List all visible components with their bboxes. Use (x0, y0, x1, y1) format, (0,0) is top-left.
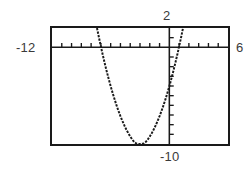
xmin-label: -12 (16, 41, 35, 54)
calculator-screenshot: -12 6 2 -10 (0, 0, 252, 169)
ymax-label: 2 (163, 9, 170, 22)
ymin-label: -10 (160, 150, 179, 163)
graph-viewing-window[interactable] (50, 26, 230, 146)
xmax-label: 6 (236, 41, 243, 54)
graph-plot (52, 28, 228, 144)
